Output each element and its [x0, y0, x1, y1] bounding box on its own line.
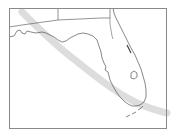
map-container	[0, 0, 175, 140]
florida-map	[0, 0, 175, 140]
